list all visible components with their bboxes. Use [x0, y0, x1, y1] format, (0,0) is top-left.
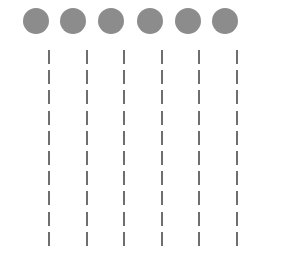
dash-segment — [48, 191, 50, 205]
dash-segment — [161, 212, 163, 226]
dash-segment — [236, 131, 238, 145]
circle-1 — [23, 8, 49, 34]
dash-segment — [161, 232, 163, 246]
dash-segment — [198, 70, 200, 84]
dash-segment — [123, 191, 125, 205]
dash-segment — [86, 131, 88, 145]
dash-segment — [236, 171, 238, 185]
dash-segment — [198, 232, 200, 246]
dash-segment — [161, 151, 163, 165]
dash-segment — [123, 70, 125, 84]
dash-segment — [161, 70, 163, 84]
dash-segment — [198, 50, 200, 64]
dash-segment — [123, 171, 125, 185]
dash-segment — [48, 131, 50, 145]
dash-segment — [198, 212, 200, 226]
dash-segment — [236, 212, 238, 226]
dash-segment — [236, 232, 238, 246]
dash-segment — [236, 70, 238, 84]
dash-segment — [86, 111, 88, 125]
dash-segment — [86, 191, 88, 205]
dash-segment — [86, 50, 88, 64]
dash-segment — [123, 131, 125, 145]
dash-segment — [48, 111, 50, 125]
dash-segment — [86, 90, 88, 104]
dash-segment — [123, 232, 125, 246]
dash-segment — [123, 111, 125, 125]
dash-segment — [86, 171, 88, 185]
dash-segment — [198, 151, 200, 165]
dash-segment — [236, 90, 238, 104]
circle-4 — [137, 8, 163, 34]
dash-segment — [161, 131, 163, 145]
dash-segment — [48, 171, 50, 185]
dash-segment — [161, 111, 163, 125]
dash-segment — [161, 50, 163, 64]
dash-segment — [86, 232, 88, 246]
dash-segment — [123, 90, 125, 104]
dash-segment — [48, 212, 50, 226]
dash-segment — [161, 90, 163, 104]
dash-segment — [48, 90, 50, 104]
dash-segment — [48, 70, 50, 84]
dash-segment — [198, 111, 200, 125]
dash-segment — [48, 232, 50, 246]
dash-segment — [236, 191, 238, 205]
circle-6 — [212, 8, 238, 34]
dash-segment — [161, 171, 163, 185]
dash-segment — [48, 50, 50, 64]
dash-segment — [198, 131, 200, 145]
dash-segment — [236, 50, 238, 64]
dash-segment — [161, 191, 163, 205]
dash-segment — [198, 191, 200, 205]
dash-segment — [86, 151, 88, 165]
dash-segment — [86, 70, 88, 84]
circle-2 — [60, 8, 86, 34]
dash-segment — [48, 151, 50, 165]
dash-segment — [123, 151, 125, 165]
dash-segment — [198, 171, 200, 185]
circle-5 — [175, 8, 201, 34]
dash-segment — [236, 151, 238, 165]
dash-segment — [123, 50, 125, 64]
dash-segment — [86, 212, 88, 226]
circle-3 — [98, 8, 124, 34]
dash-segment — [198, 90, 200, 104]
dash-segment — [236, 111, 238, 125]
dash-segment — [123, 212, 125, 226]
